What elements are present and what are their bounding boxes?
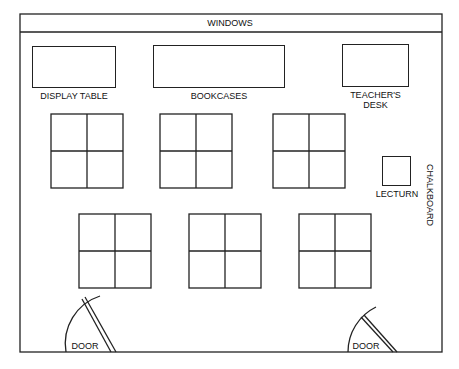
- teachers-desk-label-1: TEACHER'S: [342, 90, 409, 100]
- display-table-label: DISPLAY TABLE: [32, 91, 116, 101]
- desk-group: [273, 114, 345, 188]
- lecturn: [382, 156, 411, 186]
- teachers-desk-label-2: DESK: [342, 100, 409, 110]
- desk-group: [79, 214, 151, 288]
- desk-group: [299, 214, 371, 288]
- door-right-label: DOOR: [351, 341, 381, 351]
- bookcases-label: BOOKCASES: [153, 91, 285, 101]
- desk-group: [51, 114, 123, 188]
- display-table: [32, 46, 116, 88]
- chalkboard-label: CHALKBOARD: [425, 164, 435, 224]
- windows-label: WINDOWS: [200, 18, 260, 28]
- desk-group: [160, 114, 232, 188]
- bookcases: [153, 45, 285, 88]
- lecturn-label: LECTURN: [374, 189, 420, 199]
- teachers-desk: [342, 44, 409, 87]
- desk-group: [189, 214, 261, 288]
- door-left-label: DOOR: [70, 341, 100, 351]
